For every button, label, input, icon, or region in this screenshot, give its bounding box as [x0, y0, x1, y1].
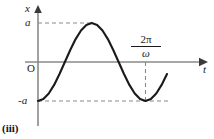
period-numerator: 2π: [131, 34, 161, 46]
amplitude-negative-label: -a: [18, 95, 27, 106]
period-label: 2π ω: [131, 34, 161, 59]
origin-label: O: [27, 63, 35, 74]
y-axis-label: x: [25, 3, 30, 14]
x-axis-label: t: [203, 64, 206, 75]
figure-number-label: (iii): [2, 122, 19, 134]
period-denominator: ω: [131, 46, 161, 59]
shm-displacement-time-figure: x t O a -a 2π ω (iii): [0, 0, 214, 139]
y-axis-arrowhead: [34, 5, 42, 13]
amplitude-positive-label: a: [25, 17, 31, 28]
